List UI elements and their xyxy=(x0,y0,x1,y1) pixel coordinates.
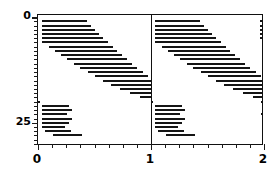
data-segment xyxy=(42,29,95,31)
y-axis-tick xyxy=(34,93,38,94)
plot-area xyxy=(38,15,262,144)
y-axis-tick xyxy=(34,47,38,48)
x-axis-tick-label: 1 xyxy=(139,152,161,166)
data-segment xyxy=(42,126,65,128)
data-segment xyxy=(193,67,250,69)
data-segment xyxy=(260,29,262,31)
data-segment xyxy=(38,101,40,103)
data-segment xyxy=(201,71,256,73)
y-axis-tick xyxy=(34,102,38,103)
x-axis-divider-line xyxy=(151,15,152,144)
data-segment xyxy=(42,118,72,120)
data-segment xyxy=(42,20,87,22)
data-segment xyxy=(162,46,226,48)
y-axis-tick xyxy=(34,64,38,65)
data-segment xyxy=(53,134,82,136)
data-segment xyxy=(55,50,117,52)
data-segment xyxy=(260,25,262,27)
data-segment xyxy=(80,67,137,69)
chart-root: 025 012 xyxy=(0,0,277,172)
y-axis-tick xyxy=(34,38,38,39)
y-axis-tick xyxy=(34,131,38,132)
data-segment xyxy=(155,122,182,124)
data-segment xyxy=(158,130,184,132)
data-segment xyxy=(67,58,127,60)
data-segment xyxy=(155,126,178,128)
y-axis-tick-label: 25 xyxy=(3,115,31,128)
y-axis-tick xyxy=(34,21,38,22)
x-axis-tick xyxy=(151,144,152,150)
x-axis-tick xyxy=(38,144,39,150)
data-segment xyxy=(61,54,123,56)
x-axis-tick xyxy=(222,144,223,148)
data-segment xyxy=(130,92,151,94)
data-segment xyxy=(208,75,261,77)
x-axis-tick xyxy=(179,144,180,148)
y-axis-tick xyxy=(34,119,38,120)
data-segment xyxy=(42,105,69,107)
x-axis-tick xyxy=(236,144,237,148)
y-axis-tick xyxy=(34,51,38,52)
y-axis-tick xyxy=(34,140,38,141)
data-segment xyxy=(42,33,99,35)
y-axis-tick xyxy=(32,123,38,124)
data-segment xyxy=(155,105,182,107)
data-segment xyxy=(155,41,221,43)
data-segment xyxy=(233,88,262,90)
data-segment xyxy=(42,41,108,43)
data-segment xyxy=(155,109,186,111)
x-axis-tick xyxy=(193,144,194,148)
data-segment xyxy=(224,84,262,86)
data-segment xyxy=(45,130,71,132)
y-axis-tick xyxy=(32,17,38,18)
x-axis-tick xyxy=(250,144,251,148)
y-axis-tick xyxy=(34,68,38,69)
y-axis-tick xyxy=(34,30,38,31)
x-axis-tick xyxy=(109,144,110,148)
y-axis-tick xyxy=(34,42,38,43)
data-segment xyxy=(42,37,103,39)
data-segment xyxy=(111,84,151,86)
data-segment xyxy=(120,88,151,90)
data-segment xyxy=(151,101,153,103)
data-segment xyxy=(253,96,262,98)
data-segment xyxy=(155,33,212,35)
y-axis-tick xyxy=(34,110,38,111)
y-axis-tick xyxy=(34,114,38,115)
data-segment xyxy=(216,80,262,82)
data-segment xyxy=(261,113,262,115)
y-axis-tick xyxy=(34,127,38,128)
y-axis-tick xyxy=(34,89,38,90)
data-segment xyxy=(103,80,151,82)
x-axis-tick xyxy=(137,144,138,148)
x-axis-tick xyxy=(95,144,96,148)
y-axis-tick xyxy=(34,34,38,35)
data-segment xyxy=(155,29,208,31)
x-axis-tick-label: 0 xyxy=(26,152,48,166)
data-segment xyxy=(168,50,230,52)
data-segment xyxy=(42,25,91,27)
data-segment xyxy=(166,134,195,136)
data-segment xyxy=(155,37,216,39)
y-axis-tick xyxy=(34,85,38,86)
y-axis-tick-label: 0 xyxy=(3,9,31,22)
data-segment xyxy=(42,122,69,124)
data-segment xyxy=(155,25,204,27)
y-axis-tick xyxy=(34,76,38,77)
data-segment xyxy=(42,109,73,111)
data-segment xyxy=(155,118,185,120)
data-segment xyxy=(155,113,180,115)
data-segment xyxy=(95,75,148,77)
data-segment xyxy=(243,92,262,94)
y-axis-tick xyxy=(34,106,38,107)
plot-frame xyxy=(37,14,263,145)
y-axis-tick xyxy=(34,26,38,27)
data-segment xyxy=(180,58,240,60)
data-segment xyxy=(74,63,133,65)
y-axis-tick xyxy=(34,59,38,60)
y-axis-tick xyxy=(34,55,38,56)
x-axis-tick-label: 2 xyxy=(252,152,274,166)
data-segment xyxy=(187,63,246,65)
data-segment xyxy=(260,20,262,22)
data-segment xyxy=(174,54,236,56)
